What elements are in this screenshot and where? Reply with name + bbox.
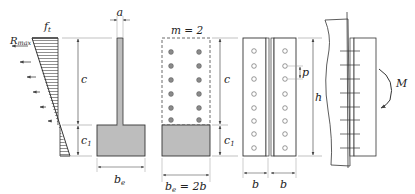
m-label: m = 2 <box>171 24 203 36</box>
ft-label: ft <box>43 20 51 34</box>
t-section: a be <box>97 6 145 187</box>
h-label: h <box>315 91 322 104</box>
moment-arrow-icon <box>379 69 392 108</box>
be-2b-label: be = 2b <box>165 180 206 194</box>
rmax-label: Rmax <box>9 35 32 47</box>
c-label-middle: c <box>224 73 230 86</box>
c1-label-left: c1 <box>81 134 92 148</box>
be-label: be <box>114 173 125 187</box>
bolted-plates: p b b <box>243 38 309 191</box>
c1-label-middle: c1 <box>224 134 235 148</box>
c-label-left: c <box>81 73 87 86</box>
equivalent-section: m = 2 be = 2b <box>162 24 210 194</box>
stress-distribution: ft Rmax <box>9 20 70 156</box>
m-moment-label: M <box>395 77 408 90</box>
bolt-holes-two-column <box>169 50 202 123</box>
a-label: a <box>117 6 124 19</box>
connection-diagram: ft Rmax c c1 a be <box>0 0 415 194</box>
b-label-right: b <box>280 178 287 191</box>
p-label: p <box>302 66 309 79</box>
side-view: M <box>325 12 408 168</box>
b-label-left: b <box>252 178 259 191</box>
